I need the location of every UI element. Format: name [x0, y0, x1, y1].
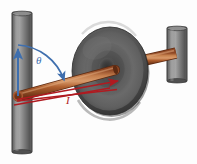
physics-diagram-figure: θ I	[0, 0, 197, 164]
left-post	[12, 11, 32, 154]
angle-label: θ	[36, 54, 42, 66]
diagram-canvas: θ I	[0, 0, 197, 164]
